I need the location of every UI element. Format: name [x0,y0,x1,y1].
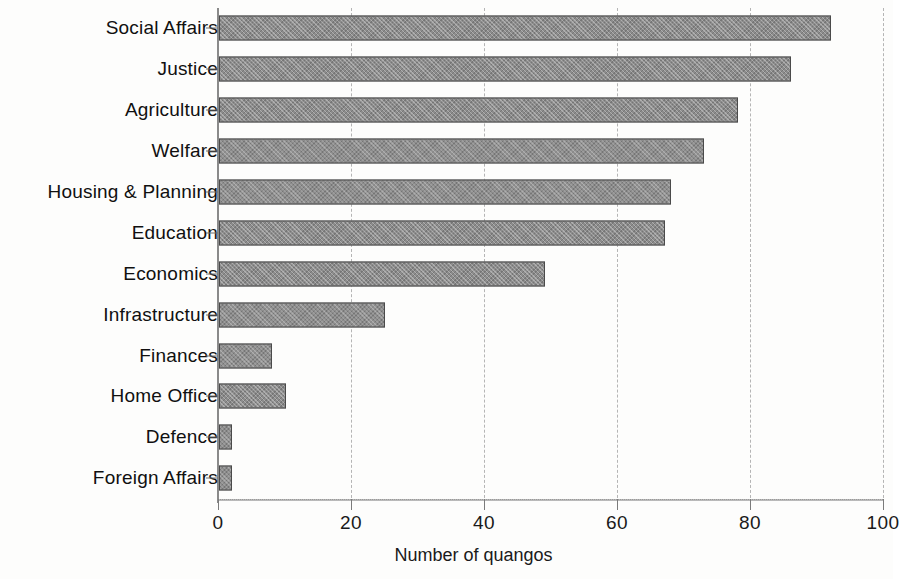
bar-row: Defence [0,417,893,458]
x-axis-tick [351,499,352,510]
y-axis-tick [206,28,218,29]
bar-row: Education [0,213,893,254]
bar-row: Infrastructure [0,294,893,335]
x-axis-tick-label: 60 [606,512,628,534]
y-axis-tick [206,232,218,233]
x-axis-tick [883,499,884,510]
category-label: Agriculture [125,99,218,121]
y-axis-tick [206,151,218,152]
bar [219,343,272,368]
x-axis-tick [750,499,751,510]
bar-row: Housing & Planning [0,172,893,213]
category-label: Infrastructure [103,304,218,326]
bar [219,261,545,286]
y-axis-tick [206,314,218,315]
x-axis-line [218,499,883,501]
bar [219,425,232,450]
y-axis-tick [206,273,218,274]
x-axis-tick-label: 40 [473,512,495,534]
y-axis-tick [206,69,218,70]
x-axis-tick-label: 20 [340,512,362,534]
bar-row: Agriculture [0,90,893,131]
bar-row: Justice [0,49,893,90]
y-axis-tick [206,110,218,111]
bar-row: Finances [0,335,893,376]
bar-row: Economics [0,253,893,294]
category-label: Foreign Affairs [93,467,218,489]
bar [219,98,738,123]
x-axis-tick-label: 100 [866,512,899,534]
category-label: Social Affairs [106,17,218,39]
y-axis-tick [206,191,218,192]
bar [219,466,232,491]
y-axis-tick [206,396,218,397]
bar-row: Welfare [0,131,893,172]
x-axis-tick [484,499,485,510]
x-axis-tick [218,499,219,510]
category-label: Home Office [111,385,218,407]
bar [219,16,831,41]
category-label: Housing & Planning [48,181,219,203]
y-axis-tick [206,478,218,479]
category-label: Economics [123,263,218,285]
bar-row: Social Affairs [0,8,893,49]
y-axis-tick [206,355,218,356]
bar-row: Foreign Affairs [0,458,893,499]
x-axis-tick-label: 80 [739,512,761,534]
y-axis-tick [206,437,218,438]
bar [219,384,286,409]
bar [219,220,665,245]
bar [219,57,791,82]
bar [219,139,704,164]
bar-row: Home Office [0,376,893,417]
x-axis-title: Number of quangos [0,545,893,566]
bar [219,302,385,327]
x-axis-tick [617,499,618,510]
x-axis-tick-label: 0 [212,512,223,534]
x-axis-title-text: Number of quangos [394,545,552,565]
bar [219,179,671,204]
